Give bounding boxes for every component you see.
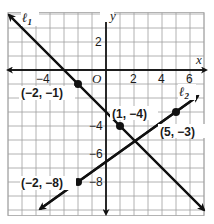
- coordinate-graph: y x O −4 2 4 6 2 −4 −6 −8 (−2, −1) (1, −…: [0, 0, 214, 224]
- y-axis-label: y: [108, 8, 116, 23]
- point-5-neg3: [172, 108, 180, 116]
- y-tick-2: 2: [95, 35, 102, 49]
- x-tick-6: 6: [186, 72, 193, 86]
- point-label-5-neg3: (5, −3): [160, 125, 195, 139]
- origin-label: O: [92, 71, 102, 86]
- y-tick-neg6: −6: [89, 147, 103, 161]
- point-label-1-neg4: (1, −4): [112, 107, 147, 121]
- point-neg2-neg1: [74, 80, 82, 88]
- y-tick-neg8: −8: [89, 175, 103, 189]
- x-tick-4: 4: [158, 72, 165, 86]
- x-tick-neg4: −4: [36, 72, 50, 86]
- x-tick-2: 2: [130, 72, 137, 86]
- y-tick-neg4: −4: [89, 119, 103, 133]
- point-label-neg2-neg1: (−2, −1): [21, 86, 63, 100]
- x-axis-label: x: [195, 52, 202, 67]
- point-label-neg2-neg8: (−2, −8): [21, 176, 63, 190]
- point-1-neg4: [116, 122, 124, 130]
